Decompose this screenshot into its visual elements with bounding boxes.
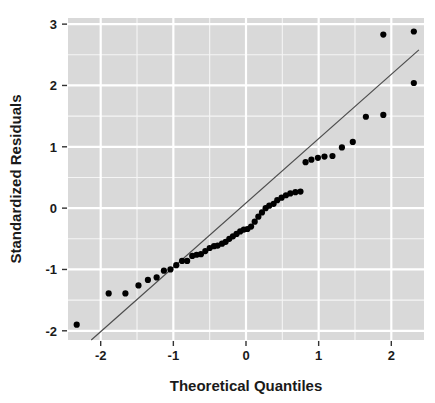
- y-axis-tick-label: 1: [50, 140, 57, 155]
- data-point: [350, 139, 356, 145]
- x-axis-tick-label: 1: [315, 348, 322, 363]
- data-point: [106, 290, 112, 296]
- y-axis-tick-label: 3: [50, 17, 57, 32]
- data-point-outlier: [411, 28, 417, 34]
- data-point: [145, 277, 151, 283]
- data-point: [315, 155, 321, 161]
- data-point: [329, 153, 335, 159]
- y-axis-tick-label: -1: [45, 262, 57, 277]
- qq-plot-svg: -2-1012 -2-10123 Theoretical Quantiles S…: [0, 0, 435, 403]
- x-axis-title: Theoretical Quantiles: [170, 377, 323, 394]
- x-axis-tick-label: 0: [242, 348, 249, 363]
- data-point: [248, 223, 254, 229]
- data-point-outlier: [380, 31, 386, 37]
- data-point: [411, 80, 417, 86]
- y-axis-tick-label: -2: [45, 324, 57, 339]
- x-axis-tick-label: -1: [168, 348, 180, 363]
- data-point: [339, 144, 345, 150]
- data-point: [252, 219, 258, 225]
- data-point: [363, 114, 369, 120]
- y-axis-title: Standardized Residuals: [7, 94, 24, 263]
- data-point: [184, 258, 190, 264]
- data-point: [161, 268, 167, 274]
- data-point: [167, 266, 173, 272]
- data-point: [122, 290, 128, 296]
- data-point: [173, 262, 179, 268]
- data-point: [74, 322, 80, 328]
- x-axis-tick-label: 2: [388, 348, 395, 363]
- data-point: [380, 112, 386, 118]
- data-point: [308, 157, 314, 163]
- y-axis-tick-label: 2: [50, 78, 57, 93]
- x-axis-tick-label: -2: [95, 348, 107, 363]
- data-point: [135, 282, 141, 288]
- qq-plot-figure: -2-1012 -2-10123 Theoretical Quantiles S…: [0, 0, 435, 403]
- data-point: [321, 154, 327, 160]
- data-point: [302, 159, 308, 165]
- data-point: [297, 188, 303, 194]
- y-axis-tick-label: 0: [50, 201, 57, 216]
- data-point: [154, 274, 160, 280]
